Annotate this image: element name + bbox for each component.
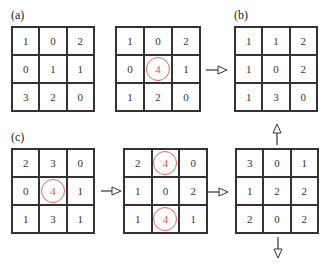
grid-cell: 0 [263, 205, 290, 233]
grid-cell: 0 [12, 55, 39, 83]
grid-cell: 1 [124, 177, 152, 205]
grid-cell: 4 [144, 55, 172, 83]
cell-value: 0 [190, 157, 196, 169]
grid-cell: 0 [172, 83, 200, 111]
cell-value: 1 [246, 35, 252, 47]
cell-value: 2 [23, 157, 29, 169]
highlight-circle-icon [153, 151, 177, 175]
cell-value: 0 [78, 91, 84, 103]
grid-cell: 0 [262, 55, 289, 83]
grid-cell: 4 [152, 149, 180, 177]
grid-cell: 1 [116, 27, 144, 55]
cell-value: 1 [78, 63, 84, 75]
grid-cell: 0 [263, 149, 290, 177]
grid-c-input: 230041131 [11, 148, 95, 234]
grid-cell: 1 [67, 205, 94, 233]
grid-cell: 0 [179, 149, 207, 177]
arrow-right-icon [100, 185, 124, 197]
cell-value: 2 [302, 213, 308, 225]
cell-value: 0 [163, 185, 169, 197]
grid-cell: 0 [152, 177, 180, 205]
grid-cell: 3 [12, 83, 39, 111]
cell-value: 3 [273, 91, 279, 103]
cell-value: 0 [127, 63, 133, 75]
cell-value: 1 [246, 63, 252, 75]
grid-cell: 1 [116, 83, 144, 111]
grid-cell: 2 [172, 27, 200, 55]
cell-value: 0 [78, 157, 84, 169]
grid-cell: 0 [290, 83, 317, 111]
cell-value: 1 [302, 157, 308, 169]
cell-value: 1 [190, 213, 196, 225]
grid-cell: 2 [290, 27, 317, 55]
cell-value: 3 [50, 213, 56, 225]
grid-cell: 1 [235, 27, 262, 55]
grid-a-sum: 102041120 [115, 26, 201, 112]
grid-cell: 2 [291, 205, 318, 233]
cell-value: 1 [247, 185, 253, 197]
grid-cell: 4 [39, 177, 66, 205]
grid-cell: 1 [235, 83, 262, 111]
label-b: (b) [234, 8, 248, 23]
cell-value: 0 [23, 185, 29, 197]
grid-c-result: 301122202 [235, 148, 319, 234]
grid-cell: 1 [172, 55, 200, 83]
cell-value: 2 [50, 91, 56, 103]
cell-value: 1 [23, 213, 29, 225]
cell-value: 3 [50, 157, 56, 169]
grid-cell: 3 [39, 205, 66, 233]
grid-b-result: 112102130 [234, 26, 318, 112]
label-c: (c) [11, 130, 24, 145]
cell-value: 0 [155, 35, 161, 47]
cell-value: 0 [301, 91, 307, 103]
cell-value: 1 [273, 35, 279, 47]
highlight-circle-icon [146, 57, 170, 81]
grid-cell: 2 [39, 83, 66, 111]
grid-cell: 2 [290, 55, 317, 83]
cell-value: 1 [127, 35, 133, 47]
cell-value: 1 [135, 185, 141, 197]
grid-cell: 1 [235, 55, 262, 83]
grid-cell: 0 [116, 55, 144, 83]
grid-cell: 1 [236, 177, 263, 205]
cell-value: 2 [247, 213, 253, 225]
cell-value: 0 [274, 213, 280, 225]
highlight-circle-icon [153, 207, 177, 231]
grid-a-input: 102011320 [11, 26, 95, 112]
cell-value: 2 [78, 35, 84, 47]
grid-cell: 3 [39, 149, 66, 177]
label-a: (a) [11, 8, 24, 23]
grid-cell: 2 [67, 27, 94, 55]
arrow-up-icon [271, 122, 283, 146]
cell-value: 0 [183, 91, 189, 103]
cell-value: 2 [274, 185, 280, 197]
grid-cell: 2 [144, 83, 172, 111]
grid-cell: 1 [12, 205, 39, 233]
cell-value: 1 [23, 35, 29, 47]
grid-c-middle: 240102141 [123, 148, 208, 234]
cell-value: 2 [301, 35, 307, 47]
grid-cell: 2 [236, 205, 263, 233]
grid-cell: 2 [263, 177, 290, 205]
arrow-down-icon [272, 236, 284, 260]
cell-value: 2 [302, 185, 308, 197]
cell-value: 2 [155, 91, 161, 103]
arrow-right-icon [207, 186, 231, 198]
grid-cell: 1 [291, 149, 318, 177]
cell-value: 0 [23, 63, 29, 75]
grid-cell: 1 [67, 177, 94, 205]
grid-cell: 4 [152, 205, 180, 233]
grid-cell: 2 [179, 177, 207, 205]
grid-cell: 0 [39, 27, 66, 55]
cell-value: 2 [301, 63, 307, 75]
cell-value: 1 [135, 213, 141, 225]
cell-value: 3 [23, 91, 29, 103]
grid-cell: 1 [12, 27, 39, 55]
cell-value: 1 [246, 91, 252, 103]
cell-value: 0 [50, 35, 56, 47]
cell-value: 1 [78, 185, 84, 197]
cell-value: 1 [78, 213, 84, 225]
arrow-right-icon [205, 64, 229, 76]
grid-cell: 1 [67, 55, 94, 83]
grid-cell: 1 [179, 205, 207, 233]
